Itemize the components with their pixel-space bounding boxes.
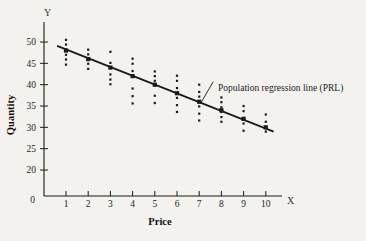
y-tick-label: 20 [27, 165, 37, 175]
data-point [132, 102, 134, 104]
data-point [198, 84, 200, 86]
data-point [109, 73, 111, 75]
conditional-mean-point [264, 125, 268, 129]
x-tick-label: 3 [108, 199, 113, 209]
data-point [132, 70, 134, 72]
y-axis-title: Quantity [5, 94, 16, 135]
data-point [154, 75, 156, 77]
data-point [132, 63, 134, 65]
x-tick-label: 2 [86, 199, 91, 209]
y-tick-label: 25 [27, 144, 37, 154]
conditional-mean-point [219, 108, 223, 112]
scatter-plot: 2025303540455012345678910 Population reg… [0, 0, 366, 241]
data-point [243, 130, 245, 132]
conditional-mean-point [153, 83, 157, 87]
conditional-mean-point [242, 117, 246, 121]
x-tick-label: 5 [152, 199, 157, 209]
data-point [220, 116, 222, 118]
data-point [176, 104, 178, 106]
data-point [265, 113, 267, 115]
plot-background [0, 0, 366, 241]
data-point [198, 113, 200, 115]
x-tick-label: 4 [130, 199, 135, 209]
data-point [198, 119, 200, 121]
x-tick-label: 7 [197, 199, 202, 209]
data-point [220, 101, 222, 103]
conditional-mean-point [175, 91, 179, 95]
data-point [265, 131, 267, 133]
data-point [65, 54, 67, 56]
data-point [220, 121, 222, 123]
x-tick-label: 1 [64, 199, 69, 209]
y-tick-label: 50 [27, 37, 37, 47]
y-tick-label: 35 [27, 101, 37, 111]
y-tick-label: 45 [27, 59, 37, 69]
data-point [109, 62, 111, 64]
data-point [176, 97, 178, 99]
annotation-label: Population regression line (PRL) [218, 83, 343, 94]
data-point [198, 96, 200, 98]
y-tick-label: 40 [27, 80, 37, 90]
x-tick-label: 6 [175, 199, 180, 209]
data-point [176, 80, 178, 82]
conditional-mean-point [108, 66, 112, 70]
x-tick-label: 8 [219, 199, 224, 209]
data-point [243, 105, 245, 107]
data-point [87, 68, 89, 70]
data-point [109, 78, 111, 80]
y-axis-symbol-label: Y [44, 7, 51, 18]
data-point [220, 96, 222, 98]
data-point [243, 122, 245, 124]
data-point [132, 95, 134, 97]
data-point [176, 75, 178, 77]
data-point [154, 80, 156, 82]
data-point [265, 121, 267, 123]
data-point [220, 106, 222, 108]
data-point [154, 95, 156, 97]
conditional-mean-point [86, 57, 90, 61]
data-point [132, 87, 134, 89]
data-point [109, 83, 111, 85]
conditional-mean-point [64, 48, 68, 52]
data-point [109, 51, 111, 53]
x-axis-title: Price [148, 216, 172, 227]
x-axis-symbol-label: X [287, 195, 295, 206]
data-point [132, 58, 134, 60]
data-point [65, 39, 67, 41]
data-point [65, 43, 67, 45]
data-point [176, 87, 178, 89]
data-point [198, 105, 200, 107]
conditional-mean-point [131, 74, 135, 78]
data-point [87, 63, 89, 65]
origin-tick-label: 0 [30, 195, 35, 205]
figure-container: 2025303540455012345678910 Population reg… [0, 0, 366, 241]
data-point [65, 58, 67, 60]
data-point [243, 110, 245, 112]
data-point [87, 53, 89, 55]
data-point [65, 64, 67, 66]
data-point [154, 70, 156, 72]
data-point [176, 111, 178, 113]
x-tick-label: 10 [261, 199, 271, 209]
x-tick-label: 9 [241, 199, 246, 209]
data-point [198, 91, 200, 93]
data-point [154, 102, 156, 104]
data-point [87, 49, 89, 51]
y-tick-label: 30 [27, 123, 37, 133]
